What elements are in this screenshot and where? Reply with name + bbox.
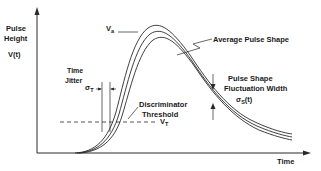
up-arrow-icon	[211, 103, 216, 109]
discriminator-leader-line	[128, 107, 138, 119]
y-axis-function: V(t)	[8, 50, 21, 59]
y-axis-arrow-icon	[35, 7, 40, 15]
x-axis-arrow-icon	[303, 151, 311, 156]
sigma-s-label: σS(t)	[236, 95, 253, 105]
average-pulse-label: Average Pulse Shape	[213, 35, 289, 44]
time-jitter-markers	[96, 82, 116, 132]
sigma-t-label: σT	[85, 83, 94, 93]
fluctuation-label-2: Fluctuation Width	[224, 84, 288, 93]
y-axis-label-2: Height	[4, 34, 28, 43]
pulse-shape-diagram: Pulse Height V(t) Time Va Average Pulse …	[0, 0, 321, 171]
time-jitter-label: Time	[67, 67, 83, 74]
lower-pulse-curve	[79, 37, 292, 153]
x-axis-label: Time	[277, 157, 294, 166]
discriminator-label: Discriminator	[139, 100, 187, 109]
average-leader-line	[177, 39, 212, 55]
y-axis-label: Pulse	[6, 24, 26, 33]
time-jitter-label-2: Jitter	[65, 77, 82, 84]
fluctuation-label: Pulse Shape	[228, 74, 273, 83]
y-axis	[35, 7, 40, 153]
fluctuation-arrows	[211, 74, 216, 120]
peak-label: Va	[106, 24, 115, 34]
